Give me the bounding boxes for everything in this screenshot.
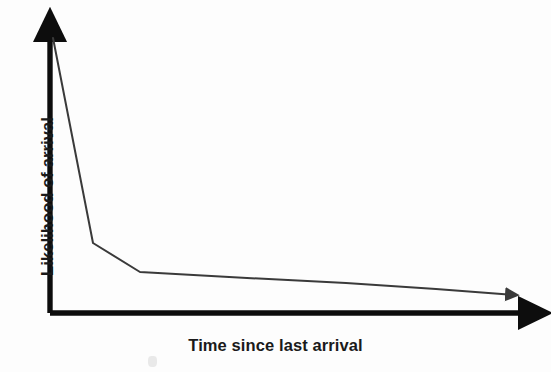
scan-artifact-smudge (148, 356, 157, 367)
y-axis-label-wrapper: Likelihood of arrival (38, 0, 57, 276)
x-axis-label: Time since last arrival (0, 336, 551, 355)
figure-root: Time since last arrival Likelihood of ar… (0, 0, 551, 372)
decay-curve-chart (0, 0, 551, 372)
y-axis-label: Likelihood of arrival (38, 117, 57, 276)
